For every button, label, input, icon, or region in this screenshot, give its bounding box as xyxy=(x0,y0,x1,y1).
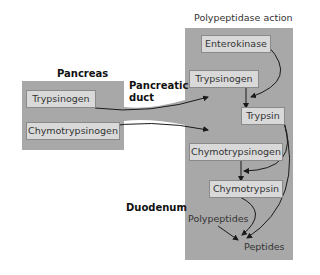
enterokinase-box: Enterokinase xyxy=(201,35,271,53)
pancreas-trypsinogen-box: Trypsinogen xyxy=(26,90,96,108)
pancreas-label: Pancreas xyxy=(57,68,108,79)
peptides-label: Peptides xyxy=(244,241,284,252)
chymotrypsinogen-box: Chymotrypsinogen xyxy=(189,143,283,161)
duodenum-label: Duodenum xyxy=(126,202,187,213)
pancreas-chymotrypsinogen-box: Chymotrypsinogen xyxy=(26,122,120,140)
pancreatic-duct xyxy=(124,100,185,125)
duct-label-line1: Pancreatic xyxy=(129,80,188,91)
trypsinogen-box: Trypsinogen xyxy=(189,70,259,88)
diagram-title: Polypeptidase action xyxy=(194,12,293,23)
duct-label-line2: duct xyxy=(129,92,154,103)
chymotrypsin-box: Chymotrypsin xyxy=(209,180,283,198)
trypsin-box: Trypsin xyxy=(241,107,285,125)
polypeptides-label: Polypeptides xyxy=(188,213,249,224)
